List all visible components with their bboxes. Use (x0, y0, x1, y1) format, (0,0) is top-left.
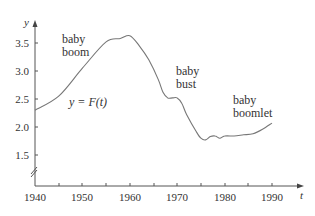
y-tick-label: 3.5 (15, 37, 29, 49)
annotation-baby-boomlet-line2: boomlet (233, 106, 273, 120)
y-tick-label: 1.5 (15, 149, 29, 161)
annotation-baby-bust-line1: baby (176, 64, 199, 78)
annotation-baby-boom-line2: boom (62, 45, 90, 59)
annotation-baby-boom-line1: baby (62, 32, 85, 46)
x-tick-label: 1960 (119, 191, 142, 203)
chart-canvas: y 3.5 3.0 2.5 2.0 1.5 t 1940 1950 1960 1… (0, 0, 315, 216)
x-axis-arrow-icon (297, 184, 304, 189)
y-axis-arrow-icon (33, 20, 38, 27)
x-axis-label: t (300, 189, 304, 201)
y-tick-label: 2.5 (15, 93, 29, 105)
function-label: y = F(t) (68, 95, 107, 109)
x-tick-label: 1990 (261, 191, 284, 203)
axis-break-icon (31, 167, 37, 177)
y-axis-label: y (23, 16, 29, 28)
x-tick-label: 1940 (24, 191, 47, 203)
annotation-baby-bust-line2: bust (176, 77, 197, 91)
y-tick-label: 3.0 (15, 65, 29, 77)
x-tick-label: 1950 (71, 191, 94, 203)
x-tick-label: 1980 (214, 191, 237, 203)
annotation-baby-boomlet-line1: baby (233, 93, 256, 107)
x-tick-label: 1970 (166, 191, 189, 203)
y-tick-label: 2.0 (15, 121, 29, 133)
